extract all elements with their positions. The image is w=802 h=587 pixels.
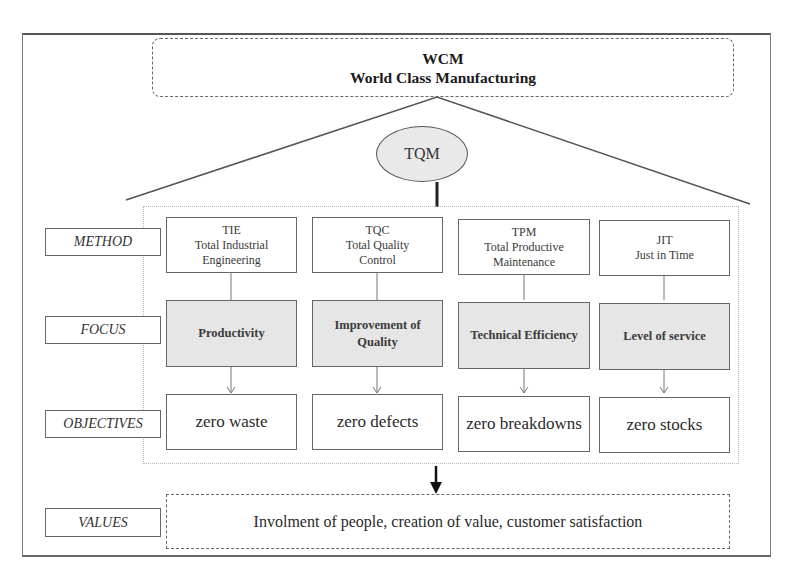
method-box-jit: JIT Just in Time xyxy=(599,220,730,276)
focus-text: Improvement of Quality xyxy=(319,317,436,351)
method-name-line2: Engineering xyxy=(202,253,261,268)
focus-text: Technical Efficiency xyxy=(470,327,578,344)
objective-box-stocks: zero stocks xyxy=(599,397,730,453)
method-acronym: JIT xyxy=(657,233,673,248)
focus-text: Productivity xyxy=(198,325,264,342)
method-name-line2: Maintenance xyxy=(493,255,555,270)
row-label-method: METHOD xyxy=(45,228,161,256)
wcm-acronym: WCM xyxy=(422,49,463,68)
row-label-values: VALUES xyxy=(45,508,161,537)
focus-box-quality: Improvement of Quality xyxy=(312,300,443,367)
method-box-tpm: TPM Total Productive Maintenance xyxy=(458,219,590,275)
values-box: Involment of people, creation of value, … xyxy=(166,494,730,549)
objective-text: zero waste xyxy=(195,412,267,432)
method-acronym: TQC xyxy=(366,223,390,238)
method-name-line1: Total Productive xyxy=(484,240,563,255)
focus-text: Level of service xyxy=(623,328,706,345)
objective-box-breakdowns: zero breakdowns xyxy=(458,396,590,452)
objective-text: zero breakdowns xyxy=(466,414,582,434)
method-acronym: TPM xyxy=(512,225,537,240)
method-name-line2: Control xyxy=(359,253,396,268)
row-label-objectives: OBJECTIVES xyxy=(45,410,161,438)
method-box-tie: TIE Total Industrial Engineering xyxy=(166,217,297,273)
method-box-tqc: TQC Total Quality Control xyxy=(312,217,443,273)
method-name-line1: Total Quality xyxy=(346,238,409,253)
method-acronym: TIE xyxy=(222,223,241,238)
method-name-line1: Just in Time xyxy=(635,248,694,263)
objective-text: zero stocks xyxy=(626,415,702,435)
objective-text: zero defects xyxy=(337,412,419,432)
tqm-ellipse: TQM xyxy=(376,126,468,182)
wcm-title: World Class Manufacturing xyxy=(350,68,536,87)
wcm-header-box: WCM World Class Manufacturing xyxy=(152,38,734,97)
values-text: Involment of people, creation of value, … xyxy=(254,513,643,531)
row-label-focus: FOCUS xyxy=(45,316,161,344)
bold-arrow-down-icon xyxy=(430,466,442,494)
objective-box-waste: zero waste xyxy=(166,394,297,450)
tqm-label: TQM xyxy=(404,145,440,163)
focus-box-service: Level of service xyxy=(599,303,730,370)
focus-box-productivity: Productivity xyxy=(166,300,297,367)
focus-box-efficiency: Technical Efficiency xyxy=(458,302,590,369)
objective-box-defects: zero defects xyxy=(312,394,443,450)
method-name-line1: Total Industrial xyxy=(195,238,268,253)
